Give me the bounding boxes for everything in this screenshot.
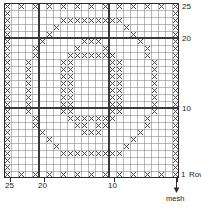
column-label-25: 25	[5, 181, 14, 190]
tick-mark-10	[114, 178, 115, 182]
filet-crochet-chart-figure: 25 20 10 1 Row 25 20 10 mesh	[0, 0, 201, 209]
row-label-20: 20	[182, 34, 191, 43]
row-axis-title: Row	[189, 170, 201, 179]
tick-mark-25	[10, 178, 11, 182]
filled-mesh-marks	[4, 3, 179, 178]
chart-grid-area	[4, 3, 179, 178]
mesh-arrow-icon	[170, 178, 183, 194]
column-label-20: 20	[38, 181, 47, 190]
column-label-10: 10	[108, 181, 117, 190]
mesh-axis-label: mesh	[166, 194, 184, 203]
row-label-10: 10	[182, 104, 191, 113]
tick-mark-20	[44, 178, 45, 182]
row-label-25: 25	[182, 2, 191, 11]
